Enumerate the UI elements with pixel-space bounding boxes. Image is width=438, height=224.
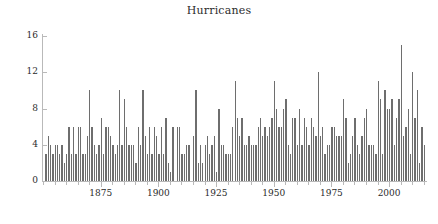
bar bbox=[195, 90, 196, 181]
bar bbox=[151, 154, 152, 181]
bar bbox=[110, 136, 111, 181]
x-axis-minor-tick bbox=[170, 182, 171, 185]
bar bbox=[248, 136, 249, 181]
x-axis-minor-tick bbox=[239, 182, 240, 185]
bar bbox=[331, 127, 332, 181]
bar bbox=[262, 136, 263, 181]
bar bbox=[387, 109, 388, 182]
y-axis-tick-label: 16 bbox=[4, 30, 38, 40]
x-axis-minor-tick bbox=[285, 182, 286, 185]
bar bbox=[313, 127, 314, 181]
bar bbox=[403, 136, 404, 181]
bar bbox=[251, 145, 252, 181]
bar bbox=[343, 99, 344, 181]
bar bbox=[193, 136, 194, 181]
bar bbox=[412, 72, 413, 181]
bar bbox=[158, 154, 159, 181]
bar bbox=[389, 109, 390, 182]
x-axis-minor-tick bbox=[320, 182, 321, 185]
bar bbox=[45, 154, 46, 181]
bar bbox=[421, 127, 422, 181]
bar bbox=[375, 154, 376, 181]
bar bbox=[188, 145, 189, 181]
x-axis-tick-label: 1925 bbox=[205, 188, 228, 198]
bar bbox=[315, 136, 316, 181]
bar bbox=[61, 145, 62, 181]
bar bbox=[396, 118, 397, 181]
bar bbox=[419, 163, 420, 181]
bar bbox=[172, 127, 173, 181]
plot-area bbox=[43, 36, 426, 181]
x-axis-minor-tick bbox=[55, 182, 56, 185]
bar bbox=[105, 127, 106, 181]
bar bbox=[357, 145, 358, 181]
bar bbox=[338, 136, 339, 181]
bar bbox=[304, 118, 305, 181]
bar bbox=[68, 127, 69, 181]
bar bbox=[52, 154, 53, 181]
bar bbox=[223, 145, 224, 181]
x-axis-minor-tick bbox=[181, 182, 182, 185]
x-axis-minor-tick bbox=[124, 182, 125, 185]
bar bbox=[126, 127, 127, 181]
bar bbox=[149, 127, 150, 181]
bar bbox=[225, 154, 226, 181]
bar bbox=[66, 154, 67, 181]
hurricanes-bar-chart: Hurricanes 0481216 187519001925195019752… bbox=[0, 0, 438, 224]
bar bbox=[161, 127, 162, 181]
bar bbox=[207, 136, 208, 181]
bar bbox=[50, 145, 51, 181]
bar bbox=[264, 127, 265, 181]
x-axis-major-tick bbox=[158, 182, 159, 187]
bar bbox=[179, 127, 180, 181]
x-axis-minor-tick bbox=[424, 182, 425, 185]
bar bbox=[371, 145, 372, 181]
bar bbox=[232, 127, 233, 181]
bar bbox=[71, 154, 72, 181]
chart-title: Hurricanes bbox=[0, 4, 438, 17]
x-axis-tick-label: 1975 bbox=[320, 188, 343, 198]
x-axis-minor-tick bbox=[251, 182, 252, 185]
bar bbox=[290, 154, 291, 181]
y-axis-tick-label: 4 bbox=[4, 139, 38, 149]
bar bbox=[142, 90, 143, 181]
bar bbox=[301, 145, 302, 181]
bar bbox=[156, 136, 157, 181]
x-axis-major-tick bbox=[216, 182, 217, 187]
bar bbox=[260, 118, 261, 181]
bar bbox=[221, 145, 222, 181]
bar bbox=[200, 145, 201, 181]
bar bbox=[366, 109, 367, 182]
bar bbox=[292, 118, 293, 181]
bar bbox=[75, 154, 76, 181]
bar bbox=[96, 154, 97, 181]
y-axis-tick-label: 12 bbox=[4, 66, 38, 76]
bar bbox=[294, 118, 295, 181]
x-axis-minor-tick bbox=[78, 182, 79, 185]
bar bbox=[244, 145, 245, 181]
bar bbox=[281, 127, 282, 181]
bar bbox=[285, 99, 286, 181]
bar bbox=[237, 118, 238, 181]
bar bbox=[246, 145, 247, 181]
bar bbox=[73, 127, 74, 181]
bar bbox=[398, 99, 399, 181]
bar bbox=[214, 136, 215, 181]
bar bbox=[271, 118, 272, 181]
bar bbox=[115, 154, 116, 181]
bar bbox=[306, 127, 307, 181]
bar bbox=[198, 163, 199, 181]
bar bbox=[135, 163, 136, 181]
x-axis-minor-tick bbox=[401, 182, 402, 185]
bar bbox=[410, 154, 411, 181]
bar bbox=[119, 90, 120, 181]
x-axis-minor-tick bbox=[43, 182, 44, 185]
bar bbox=[297, 145, 298, 181]
bar bbox=[78, 127, 79, 181]
bar bbox=[352, 136, 353, 181]
x-axis-minor-tick bbox=[66, 182, 67, 185]
bar bbox=[391, 99, 392, 181]
bar bbox=[348, 163, 349, 181]
bar bbox=[320, 136, 321, 181]
x-axis-minor-tick bbox=[147, 182, 148, 185]
